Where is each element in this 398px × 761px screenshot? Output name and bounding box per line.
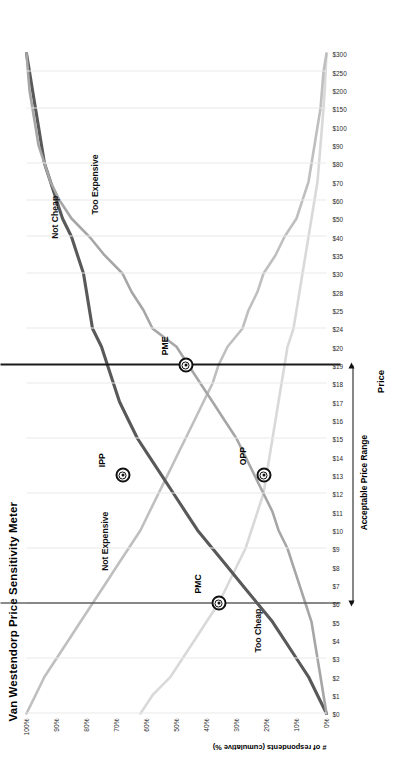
price-gridline [26, 547, 326, 548]
price-tick-label: $300 [332, 50, 346, 57]
price-tick-label: $50 [332, 215, 343, 222]
intersection-label-pme: PME [159, 336, 169, 355]
percent-tick-label: 30% [232, 718, 239, 731]
curve-label-not-cheap: Not Cheap [49, 195, 59, 238]
intersection-label-opp: OPP [237, 447, 247, 465]
intersection-label-pmc: PMC [192, 574, 202, 593]
price-tick-label: $7 [332, 582, 339, 589]
price-tick-label: $18 [332, 380, 343, 387]
price-tick-label: $5 [332, 619, 339, 626]
y-axis-label: # of respondents (cumulative %) [212, 742, 326, 751]
x-axis-label: Price [374, 1, 385, 761]
price-tick-label: $1 [332, 692, 339, 699]
price-tick-label: $25 [332, 307, 343, 314]
price-tick-label: $28 [332, 289, 343, 296]
price-tick-label: $80 [332, 160, 343, 167]
price-tick-label: $24 [332, 325, 343, 332]
acceptable-price-range-bar [352, 365, 353, 603]
price-tick-label: $8 [332, 564, 339, 571]
price-gridline [26, 492, 326, 493]
price-tick-label: $35 [332, 252, 343, 259]
percent-tick-label: 40% [202, 718, 209, 731]
percent-axis: 0%10%20%30%40%50%60%70%80%90%100% [26, 715, 326, 761]
price-gridline [26, 657, 326, 658]
acceptable-range-arrow-end [348, 362, 354, 368]
curve-label-too-cheap: Too Cheap [252, 608, 262, 652]
price-tick-label: $12 [332, 490, 343, 497]
acceptable-price-range-label: Acceptable Price Range [358, 434, 368, 529]
price-tick-label: $150 [332, 105, 346, 112]
price-gridline [26, 382, 326, 383]
price-tick-label: $13 [332, 472, 343, 479]
price-gridline [26, 327, 326, 328]
price-tick-label: $70 [332, 179, 343, 186]
price-tick-label: $90 [332, 142, 343, 149]
percent-tick-label: 10% [292, 718, 299, 731]
curve-label-not-expensive: Not Expensive [99, 511, 109, 570]
price-tick-label: $3 [332, 655, 339, 662]
price-tick-label: $2 [332, 674, 339, 681]
intersection-label-ipp: IPP [96, 453, 106, 467]
pmc-reference-line [0, 602, 340, 603]
intersection-marker-pmc[interactable] [211, 596, 226, 611]
price-gridline [26, 272, 326, 273]
price-tick-label: $0 [332, 710, 339, 717]
price-gridline [26, 235, 326, 236]
price-gridline [26, 107, 326, 108]
price-tick-label: $17 [332, 399, 343, 406]
percent-tick-label: 60% [142, 718, 149, 731]
price-tick-label: $19 [332, 362, 343, 369]
price-tick-label: $20 [332, 344, 343, 351]
price-gridline [26, 437, 326, 438]
price-tick-label: $15 [332, 435, 343, 442]
price-gridline [26, 162, 326, 163]
pme-reference-line [0, 363, 340, 364]
price-tick-label: $11 [332, 509, 342, 516]
price-gridline [26, 70, 326, 71]
price-gridline [26, 199, 326, 200]
price-tick-label: $250 [332, 69, 346, 76]
price-tick-label: $40 [332, 234, 343, 241]
acceptable-range-arrow-start [348, 600, 354, 606]
chart-title: Van Westendorp Price Sensitivity Meter [6, 501, 18, 721]
price-tick-label: $16 [332, 417, 343, 424]
price-tick-label: $10 [332, 527, 343, 534]
percent-tick-label: 20% [262, 718, 269, 731]
price-tick-label: $200 [332, 87, 346, 94]
percent-tick-label: 100% [22, 718, 29, 735]
curve-label-too-expensive: Too Expensive [89, 154, 99, 214]
price-tick-label: $30 [332, 270, 343, 277]
percent-tick-label: 70% [112, 718, 119, 731]
intersection-marker-opp[interactable] [256, 467, 271, 482]
price-tick-label: $4 [332, 637, 339, 644]
intersection-marker-pme[interactable] [178, 357, 193, 372]
chart-rotation-wrapper: Van Westendorp Price Sensitivity Meter 0… [0, 0, 398, 761]
percent-tick-label: 0% [322, 718, 329, 728]
percent-tick-label: 80% [82, 718, 89, 731]
price-tick-label: $6 [332, 600, 339, 607]
price-tick-label: $60 [332, 197, 343, 204]
price-gridline [26, 712, 326, 713]
price-tick-label: $100 [332, 124, 346, 131]
percent-tick-label: 90% [52, 718, 59, 731]
price-tick-label: $14 [332, 454, 343, 461]
intersection-marker-ipp[interactable] [115, 467, 130, 482]
plot-area: Too CheapNot ExpensiveNot CheapToo Expen… [26, 53, 326, 713]
percent-tick-label: 50% [172, 718, 179, 731]
price-tick-label: $9 [332, 545, 339, 552]
price-sensitivity-chart: Van Westendorp Price Sensitivity Meter 0… [0, 0, 398, 761]
